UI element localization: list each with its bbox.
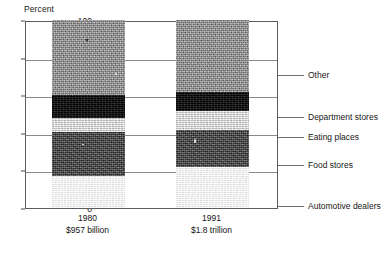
segment-1980-other[interactable] — [52, 20, 125, 95]
leader-line-department-stores — [278, 117, 304, 118]
bar-1991[interactable] — [176, 22, 249, 208]
leader-line-food-stores — [278, 165, 304, 166]
leader-line-automotive-dealers — [278, 206, 304, 207]
legend-label-automotive-dealers[interactable]: Automotive dealers — [308, 201, 381, 211]
plot-area — [25, 21, 278, 209]
x-axis-label-year-1980: 1980 — [28, 212, 148, 224]
legend-label-department-stores[interactable]: Department stores — [308, 112, 378, 122]
legend-label-other[interactable]: Other — [308, 70, 329, 80]
segment-1991-eating-places[interactable] — [176, 111, 249, 130]
x-axis-group-1991: 1991 $1.8 trillion — [152, 212, 272, 236]
legend-label-eating-places[interactable]: Eating places — [308, 132, 359, 142]
segment-1980-department-stores[interactable] — [52, 95, 125, 118]
x-axis-group-1980: 1980 $957 billion — [28, 212, 148, 236]
leader-line-other — [278, 75, 304, 76]
segment-1991-food-stores[interactable] — [176, 130, 249, 167]
y-axis-title: Percent — [24, 4, 54, 14]
x-axis-label-amount-1991: $1.8 trillion — [152, 224, 272, 236]
segment-1980-food-stores[interactable] — [52, 132, 125, 176]
x-axis-label-year-1991: 1991 — [152, 212, 272, 224]
segment-1991-other[interactable] — [176, 20, 249, 92]
bar-1980[interactable] — [52, 22, 125, 208]
segment-1991-automotive-dealers[interactable] — [176, 167, 249, 208]
segment-1980-eating-places[interactable] — [52, 118, 125, 132]
leader-line-eating-places — [278, 137, 304, 138]
segment-1991-department-stores[interactable] — [176, 92, 249, 111]
legend-label-food-stores[interactable]: Food stores — [308, 160, 353, 170]
x-axis-label-amount-1980: $957 billion — [28, 224, 148, 236]
segment-1980-automotive-dealers[interactable] — [52, 176, 125, 208]
